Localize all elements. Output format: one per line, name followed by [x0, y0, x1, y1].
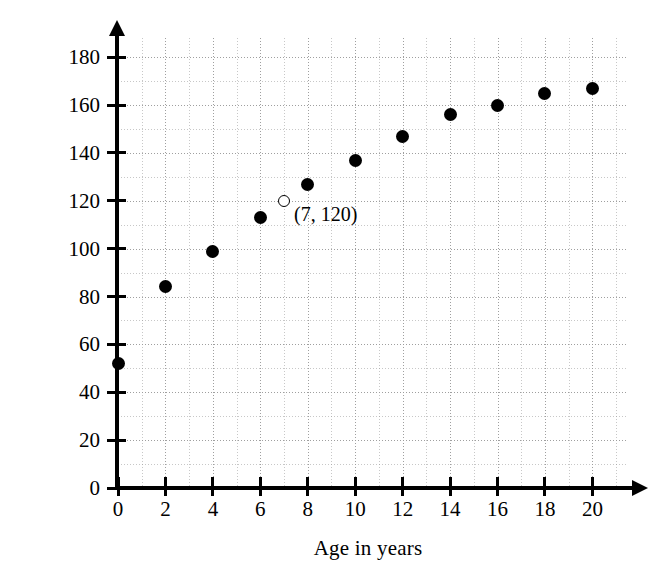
y-axis-tick-label: 140: [40, 143, 100, 164]
x-axis-tick: [211, 477, 214, 496]
x-axis-tick: [496, 477, 499, 496]
data-point: [349, 154, 362, 167]
gridline-horizontal: [118, 225, 628, 226]
y-axis-tick: [107, 104, 126, 107]
data-point: [396, 130, 409, 143]
gridline-horizontal: [118, 344, 628, 345]
gridline-horizontal: [118, 464, 628, 465]
y-axis-tick-label: 60: [40, 334, 100, 355]
data-point: [538, 87, 551, 100]
y-axis-tick: [107, 439, 126, 442]
gridline-horizontal: [118, 129, 628, 130]
gridline-horizontal: [118, 320, 628, 321]
y-axis-tick-label: 180: [40, 47, 100, 68]
gridline-horizontal: [118, 416, 628, 417]
y-axis-tick: [107, 391, 126, 394]
y-axis-tick-label: 0: [40, 478, 100, 499]
data-point: [206, 245, 219, 258]
y-axis-line: [115, 33, 119, 490]
data-point: [586, 82, 599, 95]
y-axis-tick: [107, 295, 126, 298]
x-axis-tick: [117, 477, 120, 496]
gridline-horizontal: [118, 153, 628, 154]
y-axis-tick-label: 40: [40, 382, 100, 403]
gridline-horizontal: [118, 81, 628, 82]
gridline-horizontal: [118, 177, 628, 178]
scatter-chart-figure: Average height in centimeters 0204060801…: [0, 0, 664, 584]
plot-area: [118, 38, 628, 488]
y-axis-tick-label: 20: [40, 430, 100, 451]
y-axis-tick: [107, 151, 126, 154]
data-point: [491, 99, 504, 112]
x-axis-tick: [401, 477, 404, 496]
y-axis-tick-label: 80: [40, 287, 100, 308]
y-axis-tick-label: 160: [40, 95, 100, 116]
y-axis-tick: [107, 343, 126, 346]
x-axis-title: Age in years: [118, 536, 618, 561]
data-point: [301, 178, 314, 191]
data-point-highlighted: [278, 195, 290, 207]
x-axis-tick: [543, 477, 546, 496]
x-axis-arrow-icon: [632, 480, 648, 496]
data-point: [159, 280, 172, 293]
gridline-horizontal: [118, 392, 628, 393]
gridline-horizontal: [118, 249, 628, 250]
x-axis-tick: [164, 477, 167, 496]
x-axis-tick: [354, 477, 357, 496]
y-axis-tick-label: 100: [40, 239, 100, 260]
x-axis-tick-label: 20: [562, 499, 622, 520]
x-axis-tick: [591, 477, 594, 496]
y-axis-tick: [107, 56, 126, 59]
y-axis-tick-label: 120: [40, 191, 100, 212]
x-axis-tick: [306, 477, 309, 496]
y-axis-tick: [107, 199, 126, 202]
x-axis-title-text: Age in years: [314, 536, 423, 560]
x-axis-tick: [259, 477, 262, 496]
y-axis-tick: [107, 247, 126, 250]
gridline-horizontal: [118, 201, 628, 202]
point-annotation-label: (7, 120): [294, 204, 357, 224]
gridline-horizontal: [118, 368, 628, 369]
gridline-horizontal: [118, 57, 628, 58]
x-axis-line: [116, 486, 636, 490]
y-axis-arrow-icon: [109, 20, 125, 36]
gridline-horizontal: [118, 297, 628, 298]
gridline-horizontal: [118, 105, 628, 106]
gridline-horizontal: [118, 273, 628, 274]
x-axis-tick: [449, 477, 452, 496]
y-axis-tick-labels: 020406080100120140160180: [34, 0, 100, 584]
data-point: [254, 211, 267, 224]
data-point: [444, 108, 457, 121]
gridline-horizontal: [118, 440, 628, 441]
